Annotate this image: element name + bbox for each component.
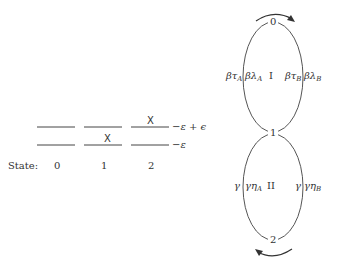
loop-two-left-outer-rate: γ xyxy=(234,181,240,193)
arrowhead-bottom-icon xyxy=(255,249,263,256)
cycle-node-1: 1 xyxy=(270,128,276,138)
state-label: State: xyxy=(8,161,38,171)
diagram-canvas xyxy=(0,0,338,259)
loop-one-right-outer-rate: βλB xyxy=(304,71,321,83)
marker-state-1-lower: X xyxy=(104,134,111,144)
energy-levels xyxy=(37,127,169,145)
state-number-0: 0 xyxy=(54,161,60,171)
lower-level-label: −ε xyxy=(172,140,186,150)
loop-two-left-inner-rate: γηA xyxy=(245,181,262,193)
marker-state-2-upper: X xyxy=(147,116,154,126)
cycle-node-2: 2 xyxy=(270,235,276,245)
state-number-1: 1 xyxy=(101,161,107,171)
loop-two-name: II xyxy=(267,181,275,191)
loop-one-left-inner-rate: βλA xyxy=(245,71,262,83)
arrow-clockwise-bottom-icon xyxy=(258,249,292,256)
loop-one-left-outer-rate: βτA xyxy=(226,71,242,83)
cycle-node-0: 0 xyxy=(270,17,276,27)
upper-level-label: −ε + ϵ xyxy=(172,122,206,132)
state-number-2: 2 xyxy=(148,161,154,171)
loop-one-right-inner-rate: βτB xyxy=(285,71,301,83)
arrowhead-top-icon xyxy=(287,15,295,22)
loop-two-right-outer-rate: γηB xyxy=(304,181,321,193)
loop-two-right-inner-rate: γ xyxy=(295,181,301,193)
loop-one-name: I xyxy=(269,71,273,81)
